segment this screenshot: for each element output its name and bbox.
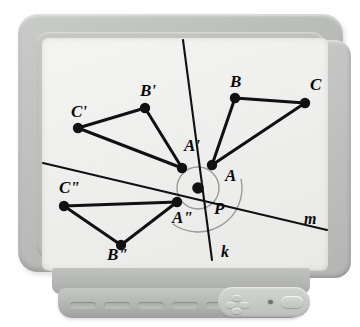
vertex-label: C' — [71, 102, 87, 121]
triangle-a-prime-edge — [78, 108, 145, 128]
vertex-point — [73, 123, 83, 133]
line-label-k: k — [221, 243, 229, 260]
vent-slot — [172, 302, 198, 309]
triangle-abc-edge — [235, 98, 305, 103]
nav-down-button[interactable] — [232, 308, 241, 314]
triangle-a-double-prime-edge — [64, 206, 121, 245]
vertex-label: C" — [59, 178, 80, 197]
triangle-a-prime-edge — [78, 128, 182, 168]
vertex-point — [59, 201, 69, 211]
screenshot-root: kmABCA'B'C'A"B"C"P — [0, 0, 360, 327]
triangle-a-prime-edge — [145, 108, 182, 168]
vertex-label: B' — [139, 81, 156, 100]
center-point — [192, 182, 204, 194]
nav-right-button[interactable] — [240, 302, 249, 308]
vertex-label: A — [224, 166, 236, 185]
vertex-label: A' — [183, 136, 200, 155]
triangle-a-double-prime-edge — [121, 202, 177, 245]
triangle-abc-edge — [212, 98, 235, 165]
vertex-label: B" — [106, 245, 128, 264]
vertex-point — [177, 163, 187, 173]
triangle-a-double-prime-edge — [64, 202, 177, 206]
vent-slot — [104, 302, 130, 309]
vent-slot — [138, 302, 164, 309]
line-label-m: m — [304, 210, 316, 227]
vertex-point — [230, 93, 240, 103]
vertex-label: B — [229, 72, 241, 91]
vertex-point — [140, 103, 150, 113]
power-button[interactable] — [281, 296, 303, 308]
geometry-figure: kmABCA'B'C'A"B"C"P — [42, 38, 328, 270]
center-point-label: P — [213, 199, 225, 218]
power-led-icon — [268, 300, 273, 304]
vent-slot — [70, 302, 96, 309]
vertex-point — [172, 197, 182, 207]
vertex-point — [207, 160, 217, 170]
monitor-screen: kmABCA'B'C'A"B"C"P — [42, 38, 328, 270]
nav-up-button[interactable] — [232, 295, 241, 301]
vertex-point — [300, 98, 310, 108]
triangle-abc-edge — [212, 103, 305, 165]
vertex-label: C — [310, 75, 322, 94]
vertex-label: A" — [171, 208, 193, 227]
